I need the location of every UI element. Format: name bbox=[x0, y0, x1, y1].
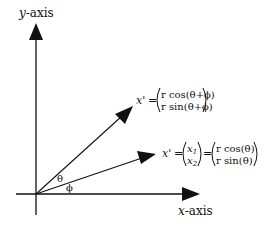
rotated-row-1: r cos(θ+ϕ) bbox=[161, 89, 215, 100]
theta-angle-label: θ bbox=[57, 173, 63, 184]
rotated-vector-arrowhead-icon bbox=[115, 106, 133, 124]
left-paren-icon bbox=[212, 142, 215, 166]
x-axis bbox=[16, 187, 200, 201]
original-vector-arrowhead-icon bbox=[137, 151, 156, 164]
diagram-canvas: y-axis x-axis θ ϕ x' = r cos(θ+ϕ) r sin(… bbox=[0, 0, 265, 228]
x-axis-label: x-axis bbox=[178, 204, 213, 218]
left-paren-icon bbox=[183, 142, 186, 166]
phi-angle-label: ϕ bbox=[66, 182, 73, 193]
original-eq: = bbox=[174, 147, 183, 160]
y-axis-arrowhead-icon bbox=[29, 23, 43, 40]
original-row-1: r cos(θ) bbox=[216, 143, 255, 154]
x2-component: x2 bbox=[187, 155, 198, 168]
rotated-eq: = bbox=[148, 94, 157, 107]
original-lhs: x' bbox=[162, 147, 171, 160]
x-axis-arrowhead-icon bbox=[182, 187, 200, 201]
rotated-lhs: x' bbox=[136, 94, 145, 107]
original-eq-2: = bbox=[203, 147, 212, 160]
rotated-vector-formula: x' = r cos(θ+ϕ) r sin(θ+ϕ) bbox=[136, 88, 215, 112]
y-axis-label: y-axis bbox=[18, 6, 54, 20]
original-vector-formula: x' = x1 x2 = r cos(θ) r sin(θ) bbox=[162, 142, 257, 168]
left-paren-icon bbox=[157, 88, 160, 112]
right-paren-icon bbox=[198, 142, 201, 166]
original-vector bbox=[36, 151, 156, 194]
rotation-diagram: y-axis x-axis θ ϕ x' = r cos(θ+ϕ) r sin(… bbox=[0, 0, 265, 228]
y-axis bbox=[29, 23, 43, 215]
original-row-2: r sin(θ) bbox=[216, 155, 253, 166]
rotated-vector bbox=[36, 106, 133, 194]
